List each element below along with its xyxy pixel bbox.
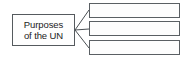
- connector-line-1: [75, 10, 89, 30]
- connector-line-3: [75, 30, 89, 48]
- root-node-label-line-1: Purposes: [24, 19, 63, 30]
- root-node-purposes-of-the-un[interactable]: Purposes of the UN: [12, 14, 75, 46]
- branch-node-3[interactable]: [89, 40, 180, 55]
- diagram-canvas: Purposes of the UN: [0, 0, 191, 59]
- branch-node-1-label: [90, 4, 179, 8]
- root-node-label-line-2: of the UN: [24, 30, 63, 41]
- branch-node-1[interactable]: [89, 3, 180, 18]
- connector-line-2: [75, 29, 89, 30]
- branch-node-3-label: [90, 41, 179, 45]
- branch-node-2[interactable]: [89, 21, 180, 36]
- branch-node-2-label: [90, 22, 179, 26]
